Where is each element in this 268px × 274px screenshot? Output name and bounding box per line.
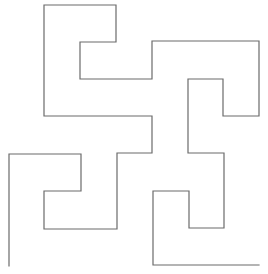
curve-canvas bbox=[0, 0, 268, 274]
space-filling-curve bbox=[9, 5, 259, 266]
